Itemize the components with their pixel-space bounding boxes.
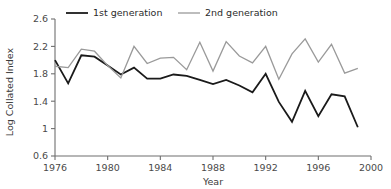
legend-label-2: 2nd generation bbox=[205, 7, 278, 18]
series-line-1 bbox=[55, 55, 358, 127]
y-tick-label: 0.6 bbox=[33, 150, 48, 161]
line-chart: 0.611.41.82.22.6 19761980198419881992199… bbox=[0, 0, 391, 189]
axis-tick-marks bbox=[51, 19, 371, 160]
x-axis-title: Year bbox=[202, 176, 223, 187]
x-tick-label: 1996 bbox=[306, 162, 330, 173]
x-tick-label: 1984 bbox=[148, 162, 172, 173]
x-tick-label: 1992 bbox=[254, 162, 278, 173]
chart-legend: 1st generation2nd generation bbox=[66, 7, 278, 18]
x-tick-label: 2000 bbox=[359, 162, 383, 173]
x-axis-tick-labels: 1976198019841988199219962000 bbox=[43, 162, 383, 173]
series-line-2 bbox=[55, 39, 358, 79]
data-series-group bbox=[55, 39, 358, 127]
y-axis-tick-labels: 0.611.41.82.22.6 bbox=[33, 13, 48, 161]
y-tick-label: 2.6 bbox=[33, 13, 48, 24]
legend-label-1: 1st generation bbox=[93, 7, 162, 18]
x-tick-label: 1976 bbox=[43, 162, 67, 173]
x-tick-label: 1980 bbox=[96, 162, 120, 173]
y-tick-label: 1 bbox=[42, 123, 48, 134]
y-tick-label: 2.2 bbox=[33, 41, 48, 52]
chart-container: 0.611.41.82.22.6 19761980198419881992199… bbox=[0, 0, 391, 189]
y-axis-title: Log Collated Index bbox=[4, 47, 15, 136]
y-tick-label: 1.4 bbox=[33, 96, 48, 107]
y-tick-label: 1.8 bbox=[33, 68, 48, 79]
x-tick-label: 1988 bbox=[201, 162, 225, 173]
